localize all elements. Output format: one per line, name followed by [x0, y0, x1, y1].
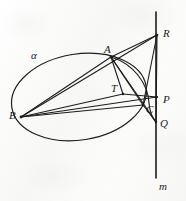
point-dot-r [156, 34, 159, 37]
label-alpha: α [31, 50, 37, 61]
geometry-figure: α A B C T P Q R m [0, 0, 186, 201]
point-dot-t [122, 93, 124, 95]
point-dot-b [20, 116, 23, 119]
label-line-m: m [159, 181, 167, 192]
label-point-q: Q [160, 118, 168, 129]
segment-b-c [21, 105, 143, 117]
point-dot-c [142, 104, 145, 107]
label-point-a: A [104, 44, 111, 55]
segment-b-t [21, 94, 123, 117]
segment-r-c [143, 35, 157, 105]
segment-a-b [21, 57, 111, 117]
label-point-r: R [163, 28, 170, 39]
point-dot-p [156, 96, 158, 98]
label-point-c: C [146, 104, 153, 115]
label-point-t: T [111, 83, 117, 94]
point-dot-q [155, 121, 157, 123]
figure-canvas [0, 0, 186, 201]
segment-a-r [111, 35, 157, 57]
point-dot-a [110, 56, 113, 59]
segment-b-r [21, 35, 157, 117]
label-point-b: B [9, 110, 16, 121]
label-point-p: P [163, 94, 170, 105]
segment-t-p [123, 94, 157, 97]
ellipse-alpha [5, 44, 153, 150]
